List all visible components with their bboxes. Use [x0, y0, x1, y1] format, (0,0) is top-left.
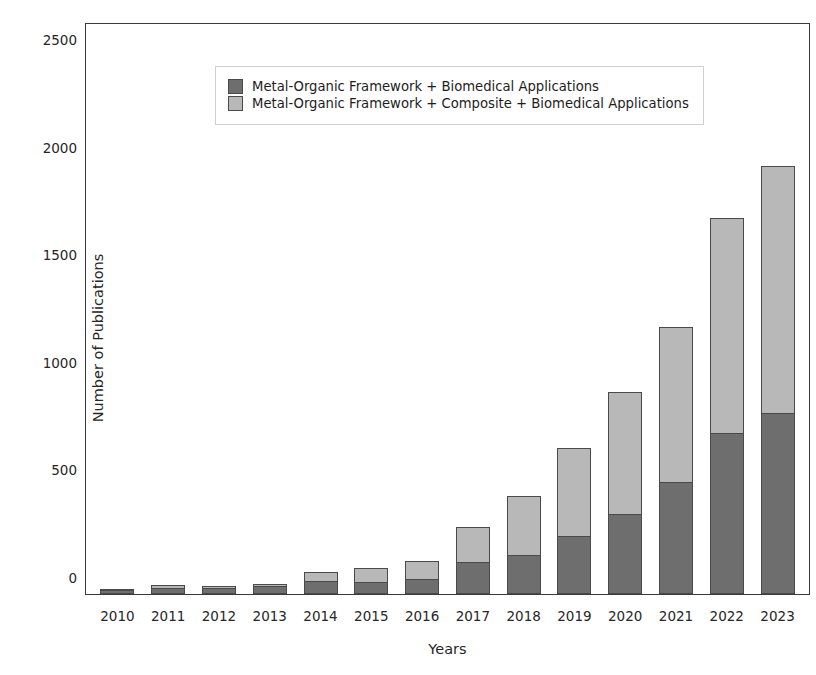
legend-swatch-light-icon	[228, 96, 243, 111]
x-axis-title: Years	[85, 641, 810, 657]
bar-segment-composite[interactable]	[405, 561, 439, 579]
x-axis-tick-label: 2016	[405, 608, 439, 624]
bar-segment-composite[interactable]	[557, 448, 591, 536]
legend-item-dark: Metal-Organic Framework + Biomedical App…	[228, 79, 689, 94]
bar-segment-biomedical[interactable]	[608, 514, 642, 594]
bar-group[interactable]: 2023	[761, 24, 795, 594]
legend-swatch-dark-icon	[228, 79, 243, 94]
bar-segment-biomedical[interactable]	[304, 581, 338, 594]
bar-segment-composite[interactable]	[761, 166, 795, 413]
publications-bar-chart: 05001000150020002500 2010201120122013201…	[0, 0, 816, 675]
bar-segment-biomedical[interactable]	[507, 555, 541, 594]
y-axis-tick-label: 2500	[43, 32, 86, 48]
x-axis-tick-label: 2019	[557, 608, 591, 624]
x-axis-tick-label: 2021	[659, 608, 693, 624]
bar-group[interactable]: 2011	[151, 24, 185, 594]
x-axis-tick-label: 2017	[456, 608, 490, 624]
y-axis-tick-label: 500	[51, 462, 86, 478]
plot-area: 05001000150020002500 2010201120122013201…	[85, 23, 810, 595]
bar-segment-biomedical[interactable]	[405, 579, 439, 594]
bar-segment-biomedical[interactable]	[659, 482, 693, 594]
bar-segment-biomedical[interactable]	[354, 582, 388, 594]
bar-segment-composite[interactable]	[659, 327, 693, 482]
y-axis-tick-label: 2000	[43, 140, 86, 156]
bar-segment-composite[interactable]	[304, 572, 338, 581]
bar-segment-biomedical[interactable]	[202, 588, 236, 594]
chart-legend: Metal-Organic Framework + Biomedical App…	[215, 66, 704, 125]
bar-group[interactable]: 2022	[710, 24, 744, 594]
bar-segment-biomedical[interactable]	[710, 433, 744, 594]
x-axis-tick-label: 2018	[506, 608, 540, 624]
bar-segment-biomedical[interactable]	[100, 590, 134, 594]
legend-item-light: Metal-Organic Framework + Composite + Bi…	[228, 96, 689, 111]
x-axis-tick-label: 2023	[760, 608, 794, 624]
bar-segment-composite[interactable]	[608, 392, 642, 515]
x-axis-tick-label: 2013	[253, 608, 287, 624]
bar-segment-biomedical[interactable]	[151, 588, 185, 594]
x-axis-tick-label: 2022	[710, 608, 744, 624]
bar-segment-biomedical[interactable]	[253, 586, 287, 594]
bar-segment-biomedical[interactable]	[557, 536, 591, 594]
bar-segment-composite[interactable]	[354, 568, 388, 582]
y-axis-tick-label: 0	[68, 570, 86, 586]
y-axis-tick-label: 1000	[43, 355, 86, 371]
x-axis-tick-label: 2020	[608, 608, 642, 624]
x-axis-tick-label: 2012	[202, 608, 236, 624]
y-axis-tick-label: 1500	[43, 247, 86, 263]
legend-label-dark: Metal-Organic Framework + Biomedical App…	[252, 79, 599, 94]
x-axis-tick-label: 2010	[100, 608, 134, 624]
x-axis-tick-label: 2015	[354, 608, 388, 624]
bar-segment-composite[interactable]	[710, 218, 744, 433]
bar-segment-biomedical[interactable]	[456, 562, 490, 594]
y-axis-title: Number of Publications	[90, 253, 106, 422]
legend-label-light: Metal-Organic Framework + Composite + Bi…	[252, 96, 689, 111]
bar-segment-composite[interactable]	[507, 496, 541, 555]
bar-segment-composite[interactable]	[456, 527, 490, 561]
x-axis-tick-label: 2011	[151, 608, 185, 624]
bar-segment-biomedical[interactable]	[761, 413, 795, 594]
x-axis-tick-label: 2014	[303, 608, 337, 624]
